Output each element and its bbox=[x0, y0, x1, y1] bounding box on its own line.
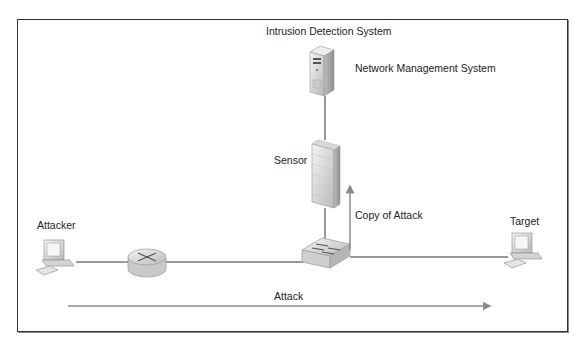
nms-label: Network Management System bbox=[355, 62, 496, 74]
router-icon bbox=[128, 249, 166, 277]
ids-title-label: Intrusion Detection System bbox=[266, 25, 391, 37]
firewall-icon bbox=[312, 140, 340, 208]
target-label: Target bbox=[510, 215, 539, 227]
network-links bbox=[76, 96, 508, 262]
copy-of-attack-label: Copy of Attack bbox=[355, 209, 423, 221]
switch-icon bbox=[302, 238, 350, 268]
target-computer-icon bbox=[504, 233, 542, 268]
attack-label: Attack bbox=[274, 290, 303, 302]
sensor-label: Sensor bbox=[274, 154, 307, 166]
server-icon bbox=[310, 46, 334, 96]
attacker-computer-icon bbox=[36, 240, 74, 275]
attacker-label: Attacker bbox=[37, 219, 76, 231]
